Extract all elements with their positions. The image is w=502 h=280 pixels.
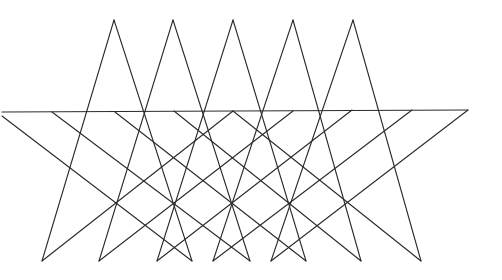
horizontal-line-group — [2, 110, 468, 112]
ascending-line-3 — [157, 110, 352, 261]
ascending-line-4 — [213, 110, 412, 261]
descending-line-1 — [2, 116, 192, 261]
triangles-group — [42, 20, 421, 261]
ascending-line-1 — [42, 111, 233, 261]
line-diagram — [0, 0, 502, 280]
ascending-line-2 — [99, 111, 293, 261]
triangle-1-right-leg — [114, 20, 192, 261]
triangle-4-right-leg — [293, 20, 361, 261]
ascending-line-5 — [271, 110, 468, 261]
triangle-5-right-leg — [353, 20, 421, 261]
descending-line-3 — [115, 112, 306, 261]
triangle-1-left-leg — [42, 20, 114, 261]
triangle-2-left-leg — [99, 20, 173, 261]
descending-line-5 — [233, 111, 421, 261]
horizontal-line — [2, 110, 468, 112]
triangle-4-left-leg — [213, 20, 293, 261]
